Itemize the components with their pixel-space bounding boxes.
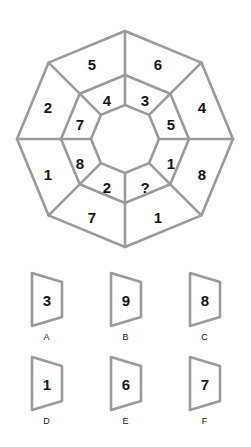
outer-cell-right-lower: 8	[198, 166, 206, 183]
option-e-label: E	[122, 416, 128, 427]
option-d-label: D	[43, 416, 50, 427]
option-f-shape: 7	[184, 353, 226, 414]
outer-cell-top-left: 5	[88, 56, 96, 73]
inner-cell-left-lower: 8	[76, 155, 84, 172]
option-b-label: B	[122, 332, 128, 343]
option-e-shape: 6	[105, 353, 147, 414]
option-d-value: 1	[42, 376, 50, 393]
option-b-shape: 9	[105, 269, 147, 330]
inner-cell-right-lower: 1	[167, 155, 175, 172]
option-c-value: 8	[200, 292, 208, 309]
puzzle-figure: 5 6 4 8 1 7 1 2 4 3 5 1 ? 2 8 7	[0, 0, 251, 262]
option-b[interactable]: 9 B	[101, 269, 151, 343]
outer-cell-bottom-left: 7	[88, 209, 96, 226]
option-f[interactable]: 7 F	[180, 353, 230, 427]
option-a[interactable]: 3 A	[22, 269, 72, 343]
answer-options-row-bottom: 1 D 6 E 7 F	[0, 343, 251, 427]
inner-cell-right-upper: 5	[167, 116, 175, 133]
inner-cell-bottom-left: 2	[103, 179, 111, 196]
option-e[interactable]: 6 E	[101, 353, 151, 427]
option-c-shape: 8	[184, 269, 226, 330]
outer-cell-right-upper: 4	[198, 99, 207, 116]
outer-cell-left-lower: 1	[44, 166, 52, 183]
option-c-label: C	[201, 332, 208, 343]
inner-cell-top-left: 4	[103, 92, 112, 109]
option-f-value: 7	[200, 376, 208, 393]
option-b-value: 9	[121, 292, 129, 309]
option-d-shape: 1	[26, 353, 68, 414]
option-a-value: 3	[42, 292, 50, 309]
option-e-value: 6	[121, 376, 129, 393]
outer-cell-left-upper: 2	[44, 99, 52, 116]
outer-cell-top-right: 6	[154, 56, 162, 73]
outer-cell-bottom-right: 1	[154, 209, 162, 226]
inner-cell-top-right: 3	[141, 92, 149, 109]
inner-cell-bottom-right: ?	[140, 179, 149, 196]
inner-cell-left-upper: 7	[76, 116, 84, 133]
option-c[interactable]: 8 C	[180, 269, 230, 343]
option-a-shape: 3	[26, 269, 68, 330]
answer-options-area: 3 A 9 B 8 C	[0, 262, 251, 447]
answer-options-row-top: 3 A 9 B 8 C	[0, 262, 251, 343]
option-d[interactable]: 1 D	[22, 353, 72, 427]
option-a-label: A	[43, 332, 49, 343]
option-f-label: F	[202, 416, 208, 427]
